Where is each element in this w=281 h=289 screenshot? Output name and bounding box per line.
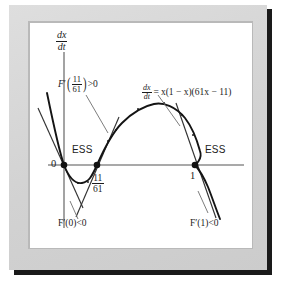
- annotation-mid-relation: >0: [88, 79, 98, 89]
- y-axis-label: dx dt: [56, 30, 67, 52]
- ess-label-left: ESS: [72, 145, 93, 155]
- root-label-zero: 0: [51, 159, 56, 170]
- phase-line-plot: [30, 23, 252, 248]
- root-label-mid-numerator: 11: [92, 173, 104, 184]
- equation-label: dx dt =x(1 − x)(61x − 11): [142, 84, 231, 102]
- leader-line-mid-tangent: [86, 95, 108, 133]
- annotation-mid-arg-denominator: 61: [72, 85, 83, 94]
- figure-root: dx dt F′( 11 61 )>0 dx dt =x(1 − x)(61x …: [0, 0, 281, 289]
- ess-label-right: ESS: [205, 145, 226, 155]
- close-paren-icon: ): [83, 77, 87, 91]
- root-label-one: 1: [190, 171, 195, 182]
- annotation-left-derivative: F′(0)<0: [58, 219, 87, 229]
- tangent-line-at-one: [176, 103, 216, 218]
- equation-rhs: x(1 − x)(61x − 11): [161, 87, 232, 97]
- annotation-mid-derivative: F′( 11 61 )>0: [58, 75, 98, 94]
- annotation-mid-derivative-prime: ′: [64, 79, 66, 89]
- root-label-eleven-sixtyfirsts: 11 61: [92, 173, 104, 194]
- equation-lhs-denominator: dt: [142, 93, 152, 101]
- leader-line-left-tangent: [70, 201, 78, 219]
- leader-line-right-tangent: [198, 191, 208, 213]
- root-dot-eleven-sixtyfirsts: [94, 162, 101, 169]
- y-axis-label-denominator: dt: [56, 42, 67, 53]
- root-dot-zero: [61, 162, 68, 169]
- plot-area: dx dt F′( 11 61 )>0 dx dt =x(1 − x)(61x …: [30, 23, 252, 248]
- y-axis-label-numerator: dx: [56, 30, 67, 42]
- root-label-mid-denominator: 61: [92, 184, 104, 194]
- equation-equals: =: [152, 87, 161, 97]
- open-paren-icon: (: [67, 77, 71, 91]
- tangent-line-at-zero: [38, 108, 83, 208]
- annotation-right-derivative: F′(1)<0: [190, 219, 219, 229]
- root-dot-one: [192, 162, 199, 169]
